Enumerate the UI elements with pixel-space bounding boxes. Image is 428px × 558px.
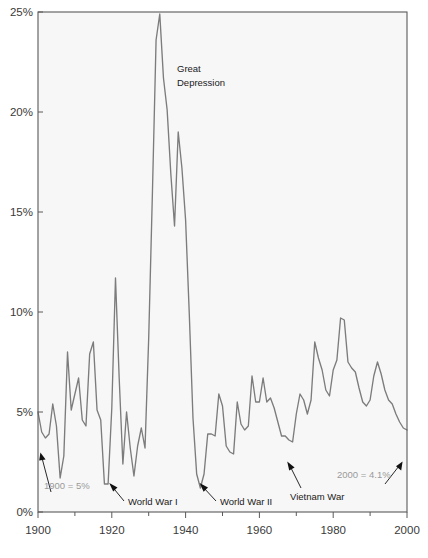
x-tick-label-1900: 1900 [25, 524, 51, 536]
y-tick-label-15: 15% [10, 206, 33, 218]
y-tick-label-20: 20% [10, 106, 33, 118]
x-tick-label-1960: 1960 [247, 524, 273, 536]
great-depression-label-line2: Depression [177, 77, 225, 88]
x-tick-label-1920: 1920 [99, 524, 125, 536]
x-axis-ticks [38, 512, 407, 518]
great-depression-label-line1: Great [177, 63, 201, 74]
start-value-label: 1900 = 5% [44, 480, 90, 491]
y-tick-label-0: 0% [16, 506, 33, 518]
vietnam-war-label: Vietnam War [290, 491, 344, 502]
chart-canvas: 0% 5% 10% 15% 20% 25% 1900 1920 1940 196… [0, 0, 428, 558]
x-tick-label-1980: 1980 [320, 524, 346, 536]
y-tick-label-10: 10% [10, 306, 33, 318]
world-war-ii-label: World War II [220, 496, 272, 507]
end-value-label: 2000 = 4.1% [337, 469, 391, 480]
x-tick-label-1940: 1940 [173, 524, 199, 536]
world-war-i-label: World War I [128, 496, 178, 507]
y-tick-label-25: 25% [10, 6, 33, 18]
x-tick-label-2000: 2000 [394, 524, 420, 536]
y-tick-label-5: 5% [16, 406, 33, 418]
unemployment-rate-chart: 0% 5% 10% 15% 20% 25% 1900 1920 1940 196… [0, 0, 428, 558]
